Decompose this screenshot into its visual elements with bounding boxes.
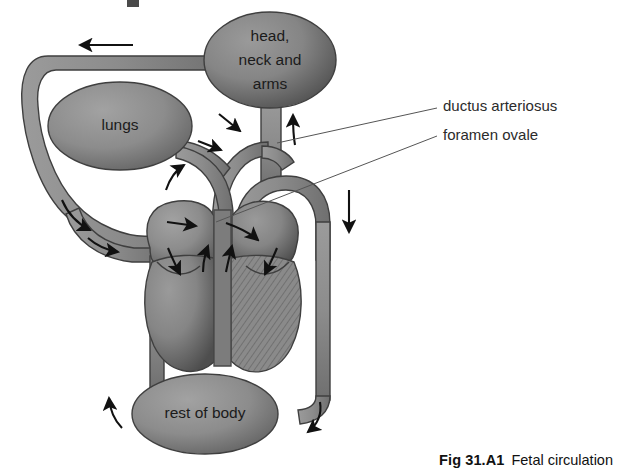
arrow-head-artery-up — [293, 115, 295, 145]
fetal-circulation-diagram: head, neck and arms lungs rest of body — [0, 0, 623, 475]
leader-ductus-arteriosus — [277, 108, 437, 143]
callout-labels: ductus arteriosus foramen ovale — [443, 97, 557, 143]
callout-label-foramen-ovale: foramen ovale — [443, 126, 538, 143]
figure-caption-body: Fetal circulation — [511, 452, 613, 468]
heart-septum — [214, 210, 231, 366]
organ-label-head-line1: head, — [251, 27, 290, 44]
organ-label-lungs: lungs — [101, 116, 138, 133]
vessel-descending-aorta — [316, 222, 330, 400]
organ-label-head-line2: neck and — [239, 51, 302, 68]
organ-label-rest-of-body: rest of body — [165, 404, 246, 421]
figure-caption-label: Fig 31.A1 — [439, 452, 504, 468]
callout-label-ductus-arteriosus: ductus arteriosus — [443, 97, 557, 114]
organ-label-head-line3: arms — [253, 75, 288, 92]
arrow-vena-cava-inflow-up — [166, 165, 184, 190]
figure-caption: Fig 31.A1Fetal circulation — [439, 452, 613, 468]
arrow-pulmonary-trunk-right — [219, 114, 240, 131]
arrow-body-return-left — [109, 398, 122, 428]
vessel-body-inflow-right — [298, 396, 330, 424]
heart — [145, 201, 301, 372]
fetal-circulation-figure: head, neck and arms lungs rest of body — [0, 0, 623, 475]
